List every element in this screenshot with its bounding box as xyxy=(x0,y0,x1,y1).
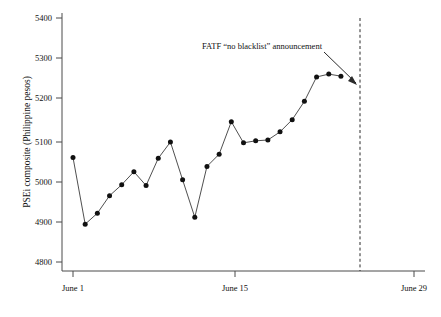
chart-canvas: 5400 5300 5200 5100 5000 4900 4800 June … xyxy=(0,0,441,317)
chart-figure: 5400 5300 5200 5100 5000 4900 4800 June … xyxy=(0,0,441,317)
data-point-marker xyxy=(314,74,319,79)
data-series-pseI-composite xyxy=(71,72,344,227)
y-tick-label-5400: 5400 xyxy=(35,13,52,23)
data-point-marker xyxy=(131,169,136,174)
data-point-marker xyxy=(168,140,173,145)
data-point-marker xyxy=(302,99,307,104)
y-tick-label-4800: 4800 xyxy=(35,257,52,267)
x-tick-label-june-15: June 15 xyxy=(222,283,248,293)
y-tick-label-5100: 5100 xyxy=(35,137,52,147)
data-point-marker xyxy=(278,129,283,134)
data-point-marker xyxy=(144,183,149,188)
data-point-marker xyxy=(326,72,331,77)
data-point-marker xyxy=(107,193,112,198)
data-point-marker xyxy=(95,211,100,216)
data-point-marker xyxy=(241,140,246,145)
y-tick-label-5300: 5300 xyxy=(35,53,52,63)
data-point-marker xyxy=(217,152,222,157)
data-point-marker xyxy=(83,222,88,227)
data-point-marker xyxy=(253,138,258,143)
x-axis-ticks xyxy=(73,271,414,277)
data-point-marker xyxy=(71,155,76,160)
y-axis-title: PSEi composite (Philippine pesos) xyxy=(22,76,33,208)
annotation-label: FATF “no blacklist” announcement xyxy=(202,41,323,51)
data-point-marker xyxy=(156,156,161,161)
y-axis-ticks xyxy=(56,18,62,262)
data-point-marker xyxy=(119,182,124,187)
y-tick-label-5000: 5000 xyxy=(35,177,52,187)
y-tick-label-4900: 4900 xyxy=(35,217,52,227)
data-point-marker xyxy=(338,74,343,79)
data-point-marker xyxy=(229,119,234,124)
data-point-marker xyxy=(192,215,197,220)
data-point-marker xyxy=(204,164,209,169)
x-tick-label-june-29: June 29 xyxy=(401,283,427,293)
data-point-marker xyxy=(180,177,185,182)
series-line xyxy=(73,74,341,224)
data-point-marker xyxy=(265,138,270,143)
x-tick-label-june-1: June 1 xyxy=(62,283,84,293)
annotation-arrow-icon xyxy=(324,52,357,85)
y-tick-label-5200: 5200 xyxy=(35,93,52,103)
data-point-marker xyxy=(290,117,295,122)
